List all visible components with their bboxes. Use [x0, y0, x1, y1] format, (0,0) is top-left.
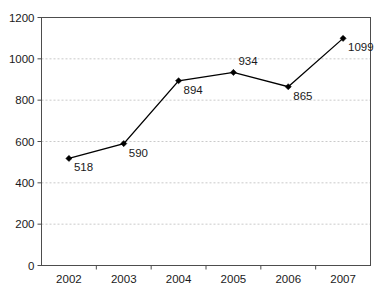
data-point-label: 894 [184, 84, 204, 96]
y-tick-label: 400 [15, 177, 34, 189]
data-point-label: 934 [238, 55, 258, 67]
x-tick-label: 2005 [221, 273, 247, 285]
y-tick-label: 600 [15, 136, 34, 148]
x-tick-label: 2007 [330, 273, 356, 285]
data-point-label: 590 [129, 147, 148, 159]
y-tick-label: 0 [28, 260, 34, 272]
x-tick-label: 2003 [111, 273, 137, 285]
y-tick-label: 200 [15, 218, 34, 230]
data-point-label: 518 [74, 161, 93, 173]
y-tick-label: 1200 [9, 12, 35, 24]
y-tick-label: 1000 [9, 53, 35, 65]
line-chart: 020040060080010001200 200220032004200520… [0, 0, 389, 297]
data-point-label: 865 [293, 90, 312, 102]
chart-canvas: 020040060080010001200 200220032004200520… [0, 0, 389, 297]
x-tick-label: 2002 [56, 273, 82, 285]
x-tick-label: 2006 [275, 273, 301, 285]
y-tick-label: 800 [15, 94, 34, 106]
x-tick-label: 2004 [166, 273, 192, 285]
chart-background [0, 0, 389, 297]
data-point-label: 1099 [348, 41, 374, 53]
